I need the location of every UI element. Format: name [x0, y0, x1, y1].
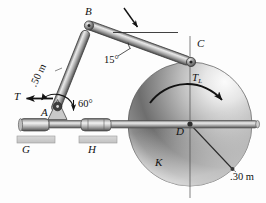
- bearing-collar-g: [20, 119, 49, 132]
- label-point-c: C: [197, 38, 204, 49]
- label-point-d: D: [176, 126, 184, 137]
- length-ab-leader: [55, 68, 62, 71]
- bearing-h: [79, 119, 117, 144]
- mechanism-figure: B C A D G H K T TL 60° 15° .50 m .30 m: [0, 0, 266, 203]
- angle-15-leader-line: [118, 49, 130, 57]
- support-pad-g: [17, 136, 55, 143]
- label-point-h: H: [88, 144, 96, 155]
- bearing-g-end-cap: [18, 119, 22, 131]
- bearing-collar-h: [81, 119, 111, 132]
- torque-tl-subscript: L: [198, 77, 202, 84]
- horizontal-reference: [113, 8, 178, 33]
- label-torque-tl: TL: [192, 72, 202, 84]
- support-pad-h: [79, 136, 117, 143]
- shaft-right-end-cap: [256, 121, 260, 128]
- bearing-g: [17, 119, 55, 144]
- pin-joint-c-center: [189, 60, 192, 63]
- link-bc-body: [86, 20, 192, 66]
- crank-hub-a: [48, 100, 67, 120]
- label-wheel-k: K: [155, 157, 162, 168]
- label-point-b: B: [85, 6, 92, 17]
- link-bc: [86, 20, 192, 66]
- shaft-body: [33, 121, 258, 129]
- bearing-d-hub: [187, 121, 192, 126]
- label-angle-60: 60°: [78, 99, 93, 110]
- pin-joint-a-center: [56, 105, 59, 108]
- label-radius: .30 m: [230, 172, 254, 183]
- pin-joint-b-center: [88, 24, 91, 27]
- label-torque-t: T: [14, 91, 20, 102]
- length-ab-tick: [55, 68, 62, 71]
- label-angle-15: 15°: [104, 55, 119, 66]
- label-point-a: A: [41, 107, 48, 118]
- label-point-g: G: [22, 144, 30, 155]
- reference-pointer-arrow: [124, 8, 138, 27]
- angle-15-leader: [118, 43, 131, 57]
- main-shaft: [33, 121, 260, 129]
- mechanism-drawing: [0, 0, 266, 203]
